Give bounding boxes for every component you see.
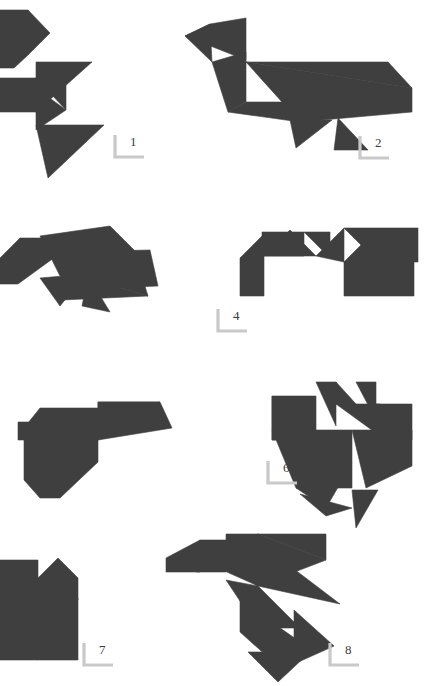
tangram-piece	[240, 234, 264, 258]
tangram-piece	[24, 408, 98, 498]
tangram-figure	[0, 558, 78, 660]
tangram-piece	[212, 52, 246, 112]
tangram-piece	[36, 125, 104, 178]
figure-label-mark: 4	[216, 308, 250, 334]
figure-label-mark: 6	[266, 460, 300, 486]
figure-label-mark: 7	[82, 642, 116, 668]
tangram-piece	[352, 430, 412, 488]
tangram-piece	[336, 382, 356, 404]
tangram-piece	[28, 10, 50, 55]
figures-group	[0, 10, 418, 682]
tangram-figure	[0, 226, 158, 312]
tangram-piece	[185, 24, 212, 62]
figure-label-number: 2	[375, 135, 382, 151]
figure-label-mark: 2	[358, 135, 392, 161]
tangram-piece	[380, 262, 414, 296]
tangram-plate: 124678	[0, 0, 435, 686]
tangram-piece	[0, 560, 38, 578]
tangram-figure	[272, 382, 412, 528]
tangram-figure	[18, 402, 172, 498]
figure-label-mark: 8	[328, 642, 362, 668]
tangram-piece	[240, 258, 264, 296]
tangram-piece	[352, 490, 378, 528]
tangram-piece	[166, 540, 200, 572]
tangram-figure	[166, 534, 340, 682]
tangram-piece	[344, 262, 380, 296]
figure-label-number: 6	[283, 460, 290, 476]
tangram-piece	[290, 120, 332, 148]
figure-label-number: 8	[345, 642, 352, 658]
tangram-figure	[0, 10, 104, 178]
figure-label-mark: 1	[113, 134, 147, 160]
figures-svg-layer	[0, 0, 435, 686]
tangram-figure	[240, 228, 418, 296]
tangram-piece	[316, 382, 336, 426]
figure-label-number: 1	[130, 134, 137, 150]
figure-label-number: 7	[99, 642, 106, 658]
tangram-piece	[98, 402, 172, 440]
tangram-piece	[0, 10, 28, 68]
figure-label-number: 4	[233, 308, 240, 324]
tangram-piece	[38, 598, 78, 660]
tangram-figure	[185, 18, 412, 150]
tangram-piece	[248, 652, 310, 682]
